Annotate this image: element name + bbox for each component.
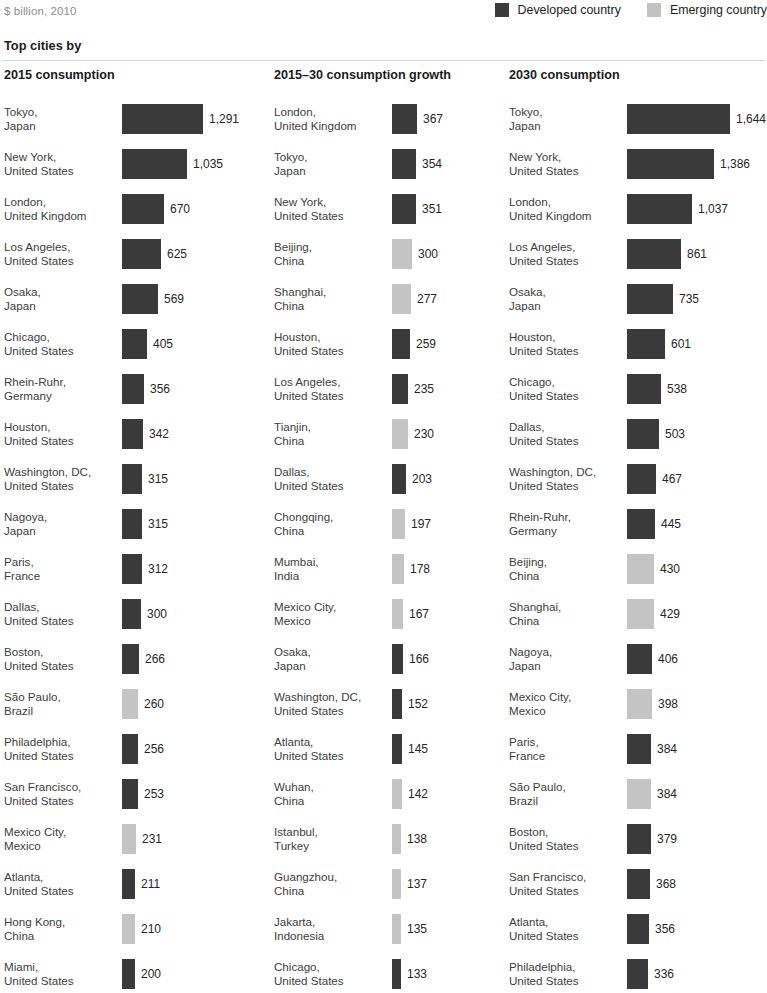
panel-2015-consumption: 2015 consumption Tokyo,Japan1,291New Yor… <box>4 68 266 993</box>
bar-container: 197 <box>392 509 502 539</box>
bar-container: 260 <box>122 689 266 719</box>
city-country: United States <box>4 659 118 673</box>
city-country: United States <box>4 164 118 178</box>
bar-rows: Tokyo,Japan1,644New York,United States1,… <box>509 96 767 993</box>
city-name: Washington, DC, <box>274 690 388 704</box>
city-name: Atlanta, <box>274 735 388 749</box>
city-name: Houston, <box>509 330 623 344</box>
bar <box>627 599 654 629</box>
bar-value-label: 315 <box>148 517 168 531</box>
bar <box>392 284 411 314</box>
city-name: Rhein-Ruhr, <box>4 375 118 389</box>
city-country: Mexico <box>509 704 623 718</box>
city-label: Osaka,Japan <box>509 285 627 312</box>
city-name: Chicago, <box>509 375 623 389</box>
bar-row: London,United Kingdom670 <box>4 186 266 231</box>
bar <box>122 239 161 269</box>
bar-row: Mumbai,India178 <box>274 546 502 591</box>
bar-container: 231 <box>122 824 266 854</box>
bar-row: Osaka,Japan735 <box>509 276 767 321</box>
city-name: Paris, <box>4 555 118 569</box>
city-name: New York, <box>509 150 623 164</box>
bar <box>627 329 665 359</box>
bar <box>122 824 136 854</box>
bar-container: 861 <box>627 239 767 269</box>
bar-container: 266 <box>122 644 266 674</box>
chart-header: $ billion, 2010 Developed country Emergi… <box>0 0 767 28</box>
city-name: Tokyo, <box>509 105 623 119</box>
bar-container: 445 <box>627 509 767 539</box>
city-label: Boston,United States <box>4 645 122 672</box>
city-name: Guangzhou, <box>274 870 388 884</box>
bar-row: Mexico City,Mexico167 <box>274 591 502 636</box>
bar-row: Chicago,United States405 <box>4 321 266 366</box>
city-name: Mexico City, <box>4 825 118 839</box>
city-country: United States <box>509 479 623 493</box>
city-name: Los Angeles, <box>509 240 623 254</box>
bar <box>122 464 142 494</box>
city-label: Washington, DC,United States <box>274 690 392 717</box>
bar-value-label: 300 <box>418 247 438 261</box>
bar <box>392 239 412 269</box>
bar-row: Osaka,Japan166 <box>274 636 502 681</box>
bar-container: 300 <box>122 599 266 629</box>
bar-container: 351 <box>392 194 502 224</box>
city-country: United States <box>274 704 388 718</box>
bar-value-label: 203 <box>412 472 432 486</box>
bar <box>122 194 164 224</box>
bar-row: Washington, DC,United States467 <box>509 456 767 501</box>
city-name: Tokyo, <box>274 150 388 164</box>
city-name: Shanghai, <box>274 285 388 299</box>
bar-row: Los Angeles,United States625 <box>4 231 266 276</box>
bar <box>627 104 730 134</box>
city-country: United States <box>509 164 623 178</box>
bar-container: 178 <box>392 554 502 584</box>
city-label: Tokyo,Japan <box>274 150 392 177</box>
city-name: Philadelphia, <box>509 960 623 974</box>
city-name: Boston, <box>509 825 623 839</box>
city-label: Shanghai,China <box>274 285 392 312</box>
bar-value-label: 735 <box>679 292 699 306</box>
bar-value-label: 1,386 <box>720 157 750 171</box>
bar <box>627 689 652 719</box>
bar-container: 256 <box>122 734 266 764</box>
city-label: London,United Kingdom <box>509 195 627 222</box>
bar-row: Rhein-Ruhr,Germany445 <box>509 501 767 546</box>
bar <box>392 419 408 449</box>
bar-row: Hong Kong,China210 <box>4 906 266 951</box>
city-country: United States <box>509 929 623 943</box>
city-name: London, <box>4 195 118 209</box>
bar-row: Miami,United States200 <box>4 951 266 993</box>
city-country: United Kingdom <box>4 209 118 223</box>
city-name: London, <box>274 105 388 119</box>
city-label: Rhein-Ruhr,Germany <box>509 510 627 537</box>
bar <box>392 329 410 359</box>
city-name: Osaka, <box>274 645 388 659</box>
bar-value-label: 384 <box>657 787 677 801</box>
bar-row: Jakarta,Indonesia135 <box>274 906 502 951</box>
bar-row: Philadelphia,United States336 <box>509 951 767 993</box>
bar-container: 368 <box>627 869 767 899</box>
bar-container: 735 <box>627 284 767 314</box>
bar-value-label: 259 <box>416 337 436 351</box>
city-label: Rhein-Ruhr,Germany <box>4 375 122 402</box>
bar-row: London,United Kingdom367 <box>274 96 502 141</box>
bar-value-label: 210 <box>141 922 161 936</box>
bar-container: 430 <box>627 554 767 584</box>
city-label: London,United Kingdom <box>4 195 122 222</box>
bar <box>627 509 655 539</box>
city-name: San Francisco, <box>4 780 118 794</box>
bar-value-label: 384 <box>657 742 677 756</box>
city-name: Tokyo, <box>4 105 118 119</box>
bar-row: Guangzhou,China137 <box>274 861 502 906</box>
bar <box>627 284 673 314</box>
bar-container: 1,291 <box>122 104 266 134</box>
bar-container: 145 <box>392 734 502 764</box>
bar <box>392 464 406 494</box>
city-country: United Kingdom <box>509 209 623 223</box>
bar <box>392 914 401 944</box>
bar-value-label: 670 <box>170 202 190 216</box>
city-country: United States <box>274 389 388 403</box>
bar-row: Nagoya,Japan315 <box>4 501 266 546</box>
city-country: Japan <box>509 659 623 673</box>
